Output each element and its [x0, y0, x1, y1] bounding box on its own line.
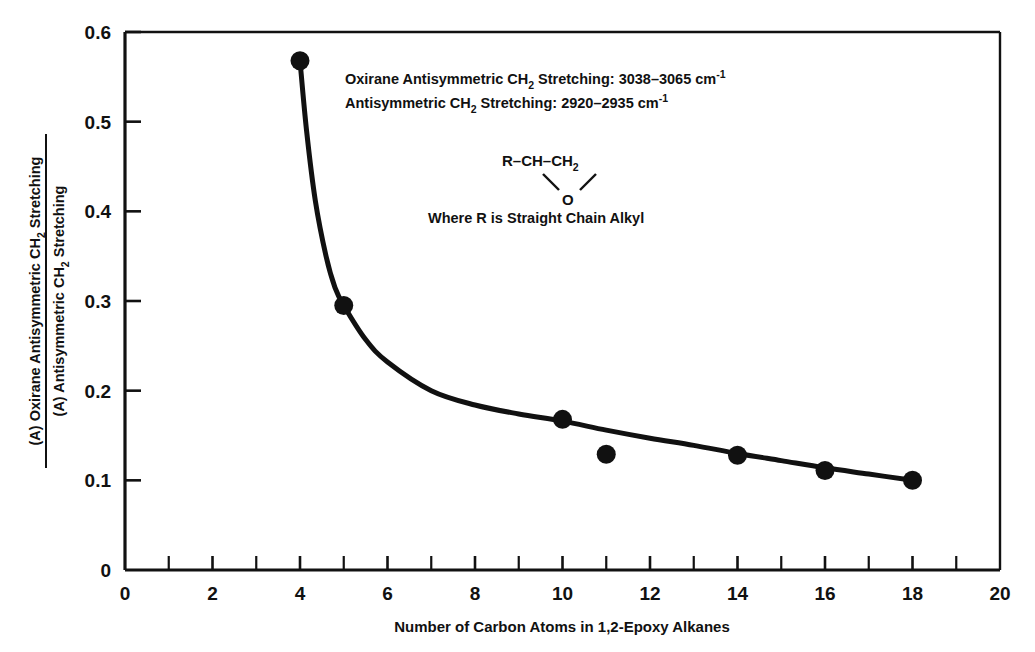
structure-oxygen-label: O — [562, 191, 574, 208]
x-tick-label: 4 — [295, 583, 306, 604]
ylab-den-a: (A) Antisymmetric CH — [51, 267, 67, 416]
ylab-num-b: Stretching — [27, 157, 43, 233]
y-tick-label: 0.3 — [85, 291, 111, 312]
data-points — [291, 51, 923, 490]
x-axis-tick-labels: 02468101214161820 — [120, 583, 1011, 604]
annot-1-a: Oxirane Antisymmetric CH — [345, 71, 528, 87]
x-tick-label: 8 — [470, 583, 481, 604]
y-tick-label: 0.2 — [85, 381, 111, 402]
data-point — [553, 410, 572, 429]
data-point — [903, 471, 922, 490]
epoxide-structure: R–CH–CH2 O — [502, 152, 596, 208]
x-tick-label: 12 — [639, 583, 660, 604]
annot-1-b: Stretching: 3038–3065 cm — [534, 71, 716, 87]
x-axis-label: Number of Carbon Atoms in 1,2-Epoxy Alka… — [394, 618, 730, 635]
annotation-line-1: Oxirane Antisymmetric CH2 Stretching: 30… — [345, 68, 726, 91]
data-point — [816, 461, 835, 480]
x-tick-label: 6 — [382, 583, 393, 604]
x-tick-label: 18 — [902, 583, 923, 604]
annotation-note: Where R is Straight Chain Alkyl — [428, 210, 644, 226]
y-tick-label: 0.4 — [85, 201, 112, 222]
chart-plot-area: 02468101214161820 00.10.20.30.40.50.6 Ox… — [0, 0, 1035, 652]
structure-bond-left — [543, 174, 559, 190]
data-point — [728, 446, 747, 465]
y-axis-label: (A) Oxirane Antisymmetric CH2 Stretching… — [27, 134, 71, 468]
y-tick-label: 0.6 — [85, 22, 111, 43]
x-tick-label: 2 — [207, 583, 218, 604]
y-axis-label-numerator: (A) Oxirane Antisymmetric CH2 Stretching — [27, 157, 47, 446]
x-tick-label: 20 — [989, 583, 1010, 604]
ylab-num-a: (A) Oxirane Antisymmetric CH — [27, 238, 43, 445]
structure-top-sub: 2 — [573, 161, 579, 173]
y-axis-tick-labels: 00.10.20.30.40.50.6 — [85, 22, 112, 581]
structure-bond-right — [580, 174, 596, 190]
x-tick-label: 14 — [727, 583, 749, 604]
annotation-text-block: Oxirane Antisymmetric CH2 Stretching: 30… — [345, 68, 726, 115]
data-point — [334, 296, 353, 315]
y-axis-label-denominator: (A) Antisymmetric CH2 Stretching — [51, 186, 71, 417]
x-tick-label: 10 — [552, 583, 573, 604]
annot-2-b: Stretching: 2920–2935 cm — [477, 95, 659, 111]
annotation-line-2: Antisymmetric CH2 Stretching: 2920–2935 … — [345, 92, 668, 115]
plot-frame — [125, 32, 1000, 570]
data-point — [597, 445, 616, 464]
ylab-den-b: Stretching — [51, 186, 67, 262]
y-tick-label: 0.1 — [85, 470, 112, 491]
y-tick-label: 0.5 — [85, 112, 112, 133]
structure-top-a: R–CH–CH — [502, 152, 573, 169]
annot-2-sup: -1 — [659, 92, 668, 104]
x-axis-ticks — [169, 556, 957, 570]
structure-formula-top: R–CH–CH2 — [502, 152, 579, 173]
x-tick-label: 16 — [814, 583, 835, 604]
annot-2-a: Antisymmetric CH — [345, 95, 471, 111]
y-tick-label: 0 — [100, 560, 111, 581]
annot-1-sup: -1 — [716, 68, 725, 80]
chart-container: 02468101214161820 00.10.20.30.40.50.6 Ox… — [0, 0, 1035, 652]
fit-curve — [300, 61, 913, 481]
data-point — [291, 51, 310, 70]
x-tick-label: 0 — [120, 583, 131, 604]
y-axis-ticks — [125, 32, 141, 480]
